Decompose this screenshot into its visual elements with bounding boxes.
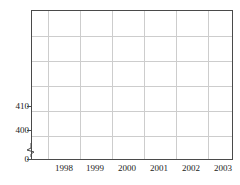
chart-figure: 410 400 0 1998 1999 2000 2001 2002 2003 — [0, 0, 240, 185]
y-tick-mark-400 — [27, 130, 31, 131]
x-tick-label-2002: 2002 — [182, 163, 200, 173]
x-axis: 1998 1999 2000 2001 2002 2003 — [31, 163, 233, 177]
x-tick-label-2000: 2000 — [118, 163, 136, 173]
y-axis: 410 400 0 — [0, 0, 29, 185]
y-tick-mark-410 — [27, 106, 31, 107]
y-tick-label-400: 400 — [3, 126, 29, 135]
y-tick-mark-0 — [27, 159, 31, 160]
x-tick-label-1998: 1998 — [55, 163, 73, 173]
x-tick-label-1999: 1999 — [86, 163, 104, 173]
x-tick-label-2001: 2001 — [150, 163, 168, 173]
data-series-layer — [32, 11, 233, 160]
y-tick-label-410: 410 — [3, 102, 29, 111]
x-tick-label-2003: 2003 — [214, 163, 232, 173]
plot-area — [31, 10, 233, 160]
y-axis-break-icon — [25, 143, 37, 157]
